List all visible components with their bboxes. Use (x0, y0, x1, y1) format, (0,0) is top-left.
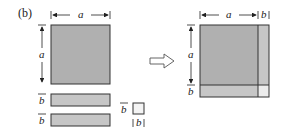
strip-ab-1 (51, 94, 110, 106)
small-square-height-label: b (121, 103, 127, 115)
square-a (51, 25, 110, 84)
right-side-b-label: b (188, 85, 194, 97)
right-top-b-label: b (261, 8, 267, 20)
left-square-width-label: a (78, 8, 84, 20)
region-a-squared (200, 25, 258, 85)
strip-2-height-label: b (39, 114, 45, 126)
right-square-group: a b a b (187, 8, 269, 97)
region-ab-bottom (200, 85, 258, 97)
region-b-squared (258, 85, 269, 97)
panel-label: (b) (18, 6, 32, 20)
left-square-height-label: a (39, 48, 45, 60)
region-ab-right (258, 25, 269, 85)
diagram-canvas: (b) a a b b b b (0, 0, 285, 136)
left-strip-2: b (38, 114, 110, 126)
left-square-group: a a (38, 8, 110, 84)
small-square-width-label: b (136, 116, 142, 128)
right-side-a-label: a (188, 48, 194, 60)
right-top-a-label: a (226, 8, 232, 20)
strip-ab-2 (51, 114, 110, 126)
left-small-square: b b (120, 103, 144, 128)
left-strip-1: b (38, 94, 110, 106)
square-b (133, 103, 144, 114)
hollow-right-arrow-icon (150, 54, 174, 68)
strip-1-height-label: b (39, 94, 45, 106)
